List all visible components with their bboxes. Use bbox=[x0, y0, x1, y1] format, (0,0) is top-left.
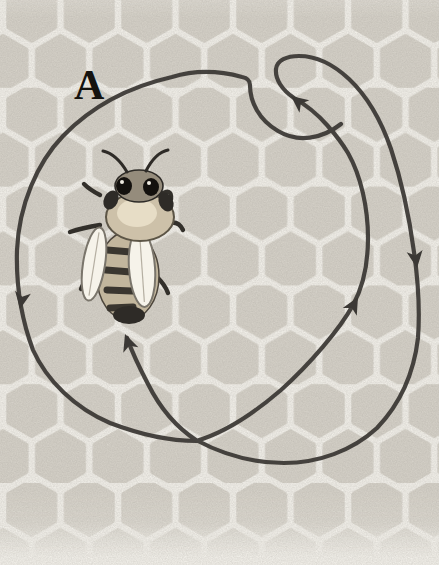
bee-thorax-fuzz bbox=[117, 199, 157, 227]
figure-canvas: A bbox=[0, 0, 439, 565]
bee-eye-glint-left bbox=[120, 180, 124, 184]
bee-abdomen-stripe bbox=[107, 250, 131, 252]
panel-label: A bbox=[74, 62, 105, 108]
bee-eye-right bbox=[143, 178, 159, 196]
bee-abdomen-stripe bbox=[107, 290, 132, 291]
bee-eye-left bbox=[116, 177, 132, 195]
bee-tail-tip bbox=[113, 306, 145, 324]
bee-eye-glint-right bbox=[147, 181, 151, 185]
textbook-figure-round-dance: A bbox=[0, 0, 439, 565]
paper-grain-texture bbox=[0, 0, 439, 565]
bee-abdomen-stripe bbox=[106, 270, 131, 272]
